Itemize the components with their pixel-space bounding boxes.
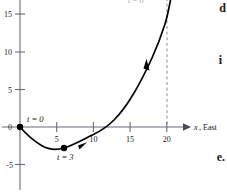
margin-letter-e: e. [217,150,225,165]
y-tick-label-0: 0 [8,123,12,132]
y-tick-label-5: 5 [8,86,12,95]
annotation-t-top-faint: t = 6 [128,0,144,5]
marker-point-t3 [61,145,67,151]
plot-svg: 15 10 5 0 -5 5 10 15 20 x , East t = 0 t… [0,0,227,192]
annotation-t0: t = 0 [27,114,44,124]
direction-arrow-lower [78,142,87,149]
y-tick-label-10: 10 [4,48,12,57]
x-axis-label-text: , East [199,123,218,132]
x-axis-label-symbol: x [193,123,198,132]
marker-point-t0 [17,124,23,130]
margin-letter-d: d [219,1,226,16]
x-tick-label-20: 20 [163,135,171,144]
x-axis-arrowhead [183,123,191,131]
annotation-t3: t = 3 [57,152,74,162]
y-tick-label-15: 15 [4,10,12,19]
x-tick-label-15: 15 [126,135,134,144]
trajectory-figure: 15 10 5 0 -5 5 10 15 20 x , East t = 0 t… [0,0,227,192]
y-tick-label-minus5: -5 [6,161,13,170]
x-tick-label-5: 5 [55,135,59,144]
margin-letter-i: i [219,53,222,68]
